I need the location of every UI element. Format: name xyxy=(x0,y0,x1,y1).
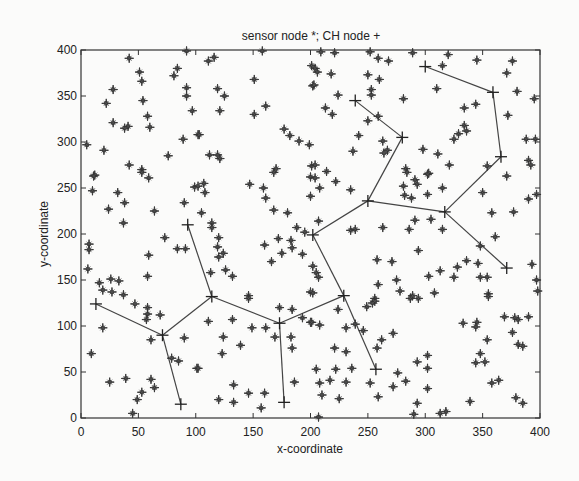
ch-link xyxy=(212,297,280,324)
sensor-node-marker xyxy=(173,244,182,253)
sensor-node-marker xyxy=(182,83,191,92)
sensor-node-marker xyxy=(182,46,191,55)
sensor-node-marker xyxy=(399,182,408,191)
ch-link xyxy=(368,137,402,200)
sensor-node-marker xyxy=(500,312,509,321)
sensor-node-marker xyxy=(215,106,224,115)
ch-node-marker xyxy=(307,229,319,241)
sensor-node-marker xyxy=(476,241,485,250)
sensor-node-marker xyxy=(245,180,254,189)
ch-node-marker xyxy=(370,363,382,375)
sensor-node-marker xyxy=(228,315,237,324)
sensor-node-marker xyxy=(423,364,432,373)
ch-node-marker xyxy=(338,290,350,302)
sensor-node-marker xyxy=(347,364,356,373)
sensor-node-marker xyxy=(307,318,316,327)
ch-link xyxy=(162,297,211,336)
sensor-node-marker xyxy=(423,190,432,199)
sensor-node-marker xyxy=(214,395,223,404)
y-tick-label: 400 xyxy=(57,43,77,57)
ch-link xyxy=(493,92,501,156)
sensor-node-marker xyxy=(260,241,269,250)
sensor-node-marker xyxy=(348,147,357,156)
sensor-node-marker xyxy=(478,188,487,197)
sensor-node-marker xyxy=(135,68,144,77)
sensor-node-marker xyxy=(513,87,522,96)
sensor-node-marker xyxy=(423,384,432,393)
sensor-node-marker xyxy=(445,161,454,170)
sensor-node-marker xyxy=(351,225,360,234)
sensor-node-marker xyxy=(483,335,492,344)
ch-node-marker xyxy=(349,95,361,107)
sensor-node-marker xyxy=(335,394,344,403)
sensor-node-marker xyxy=(331,177,340,186)
sensor-node-marker xyxy=(83,264,92,273)
sensor-node-marker xyxy=(433,149,442,158)
ch-node-marker xyxy=(278,396,290,408)
figure: sensor node *; CH node + 050100150200250… xyxy=(0,0,579,481)
sensor-node-marker xyxy=(471,358,480,367)
sensor-node-marker xyxy=(389,329,398,338)
sensor-node-marker xyxy=(130,299,139,308)
sensor-node-marker xyxy=(283,208,292,217)
sensor-node-marker xyxy=(533,287,542,296)
chart-title: sensor node *; CH node + xyxy=(242,29,380,43)
ch-node-marker xyxy=(419,61,431,73)
y-tick-label: 0 xyxy=(70,411,77,425)
sensor-node-marker xyxy=(250,110,259,119)
sensor-node-marker xyxy=(438,184,447,193)
y-tick-label: 100 xyxy=(57,319,77,333)
x-tick-label: 400 xyxy=(530,425,550,439)
sensor-node-marker xyxy=(424,272,433,281)
sensor-node-marker xyxy=(188,106,197,115)
ch-node-marker xyxy=(206,291,218,303)
sensor-node-marker xyxy=(444,50,453,59)
sensor-node-marker xyxy=(125,54,134,63)
ch-links xyxy=(96,67,507,405)
sensor-node-marker xyxy=(119,218,128,227)
sensor-node-marker xyxy=(150,207,159,216)
sensor-node-marker xyxy=(354,131,363,140)
sensor-node-marker xyxy=(145,123,154,132)
sensor-node-marker xyxy=(120,198,129,207)
sensor-node-marker xyxy=(453,263,462,272)
sensor-node-marker xyxy=(128,409,137,418)
sensor-node-marker xyxy=(330,344,339,353)
sensor-node-marker xyxy=(466,397,475,406)
sensor-node-marker xyxy=(367,91,376,100)
sensor-node-marker xyxy=(387,257,396,266)
ch-node-marker xyxy=(90,298,102,310)
sensor-node-marker xyxy=(133,395,142,404)
y-axis-label: y-coordinate xyxy=(37,201,51,267)
sensor-node-marker xyxy=(449,135,458,144)
ch-link xyxy=(162,335,180,404)
y-tick-label: 150 xyxy=(57,273,77,287)
y-tick-label: 350 xyxy=(57,89,77,103)
sensor-node-marker xyxy=(182,92,191,101)
sensor-node-marker xyxy=(143,272,152,281)
sensor-node-marker xyxy=(179,135,188,144)
sensor-node-marker xyxy=(393,368,402,377)
sensor-node-marker xyxy=(502,172,511,181)
sensor-node-marker xyxy=(480,357,489,366)
sensor-node-marker xyxy=(377,335,386,344)
y-tick-label: 250 xyxy=(57,181,77,195)
sensor-node-marker xyxy=(213,84,222,93)
sensor-node-marker xyxy=(389,382,398,391)
ch-link xyxy=(313,235,344,296)
sensor-node-marker xyxy=(373,255,382,264)
y-tick-label: 200 xyxy=(57,227,77,241)
sensor-node-marker xyxy=(221,265,230,274)
sensor-node-marker xyxy=(260,389,269,398)
axes-box xyxy=(81,50,540,418)
sensor-node-marker xyxy=(229,380,238,389)
sensor-node-marker xyxy=(346,185,355,194)
sensor-node-marker xyxy=(399,94,408,103)
sensor-node-marker xyxy=(509,207,518,216)
y-tick-label: 300 xyxy=(57,135,77,149)
sensor-node-marker xyxy=(351,320,360,329)
sensor-node-marker xyxy=(363,70,372,79)
sensor-node-marker xyxy=(206,268,215,277)
sensor-node-marker xyxy=(236,341,245,350)
x-tick-label: 150 xyxy=(243,425,263,439)
